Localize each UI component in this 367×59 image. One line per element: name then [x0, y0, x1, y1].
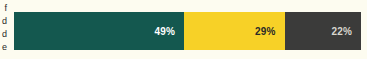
stacked-bar: 49% 29% 22% [14, 12, 361, 50]
stacked-bar-chart: f d d e 49% 29% 22% [0, 0, 367, 59]
clipped-row-label: e [2, 42, 7, 52]
clipped-row-label: f [4, 3, 7, 13]
bar-segment-1-value: 49% [154, 26, 184, 37]
clipped-row-label-column: f d d e [0, 0, 12, 59]
bar-segment-3[interactable]: 22% [285, 12, 361, 50]
bar-segment-1[interactable]: 49% [14, 12, 184, 50]
bar-segment-2[interactable]: 29% [184, 12, 285, 50]
clipped-row-label: d [2, 29, 7, 39]
bar-segment-3-value: 22% [331, 26, 361, 37]
clipped-row-label: d [2, 16, 7, 26]
bar-segment-2-value: 29% [255, 26, 285, 37]
